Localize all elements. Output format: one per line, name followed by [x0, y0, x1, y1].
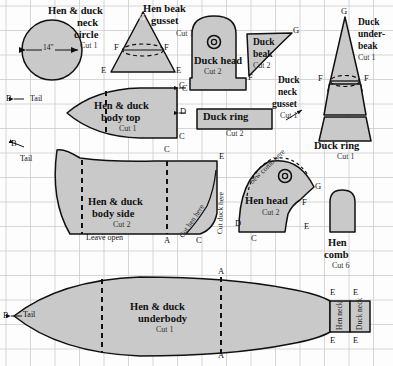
- body-side-point-e: E: [219, 152, 224, 161]
- duck-under-beak-title-line1: Duck: [358, 18, 380, 28]
- underbody-title-line2: underbody: [138, 314, 187, 325]
- duck-head-cut: Cut 2: [204, 68, 222, 76]
- body-side-tail-label: Tail: [20, 155, 32, 163]
- piece-duck-head: [190, 16, 246, 90]
- duck-neck-gusset-title-line3: gusset: [272, 100, 297, 110]
- duck-under-beak-cut: Cut 1: [358, 54, 376, 62]
- hen-beak-gusset-cut: Cut 1: [176, 30, 194, 38]
- underbody-title-line1: Hen & duck: [130, 302, 185, 313]
- piece-duck-under-beak: [328, 17, 362, 91]
- duck-neck-label: Duck neck: [356, 298, 364, 330]
- neck-circle-title-line2: neck: [77, 18, 98, 29]
- duck-under-beak-point-f-right: F: [364, 74, 369, 83]
- hen-neck-label: Hen neck: [336, 301, 344, 330]
- body-side-point-c-top: C: [164, 145, 170, 154]
- body-top-cut: Cut 1: [119, 125, 137, 133]
- hen-beak-gusset-point-f-left: F: [114, 43, 119, 52]
- body-side-point-b: B: [11, 139, 17, 148]
- body-top-point-d: D: [180, 107, 186, 116]
- underbody-tail-label: Tail: [23, 311, 35, 319]
- hen-head-point-g: G: [315, 182, 321, 191]
- duck-beak-point-g: G: [293, 26, 299, 35]
- duck-head-title: Duck head: [194, 56, 242, 67]
- body-top-point-c-top: C: [179, 81, 185, 90]
- hen-beak-gusset-title-line1: Hen beak: [143, 4, 186, 15]
- body-side-point-c-bottom: C: [196, 236, 202, 245]
- duck-under-beak-point-g: G: [341, 7, 347, 16]
- underbody-point-e-duck-bottom: E: [353, 336, 358, 345]
- body-top-tail-label: Tail: [30, 95, 42, 103]
- duck-beak-title-line1: Duck: [253, 38, 275, 48]
- hen-head-point-f: F: [302, 198, 307, 207]
- piece-duck-neck-gusset: [324, 84, 366, 115]
- duck-neck-gusset-title-line2: neck: [278, 88, 297, 98]
- body-top-title-line1: Hen & duck: [94, 101, 149, 112]
- underbody-point-e-hen-bottom: E: [330, 336, 335, 345]
- duck-neck-gusset-title-line1: Duck: [278, 76, 300, 86]
- neck-circle-dimension-label: 14": [42, 44, 55, 52]
- duck-beak-title-line2: beak: [253, 50, 273, 60]
- hen-head-point-d: D: [235, 219, 241, 228]
- body-side-point-a: A: [164, 236, 170, 245]
- cut-duck-here-label: Cut duck here: [216, 192, 225, 234]
- hen-beak-gusset-point-f-right: F: [164, 43, 169, 52]
- underbody-point-a-bottom: A: [218, 351, 224, 360]
- hen-comb-title-line2: comb: [324, 250, 349, 261]
- duck-under-beak-title-line2: under-: [358, 30, 385, 40]
- underbody-point-a-top: A: [218, 267, 224, 276]
- hen-head-title: Hen head: [245, 196, 288, 207]
- underbody-point-e-hen-top: E: [330, 288, 335, 297]
- hen-beak-gusset-point-e-right: E: [176, 66, 181, 75]
- body-top-point-c-bottom: C: [179, 132, 185, 141]
- body-side-cut: Cut 2: [113, 221, 131, 229]
- pattern-sheet: Hen & duck neck circle Cut 1 14" Hen bea…: [0, 0, 393, 366]
- duck-ring-large-cut: Cut 1: [337, 153, 355, 161]
- body-top-point-b: B: [6, 94, 12, 103]
- body-top-title-line2: body top: [101, 113, 140, 124]
- hen-comb-title-line1: Hen: [328, 238, 347, 249]
- duck-ring-large-title: Duck ring: [314, 141, 359, 152]
- underbody-point-e-duck-top: E: [353, 288, 358, 297]
- underbody-cut: Cut 1: [156, 326, 174, 334]
- duck-beak-point-f: F: [248, 73, 253, 82]
- hen-beak-gusset-point-e-left: E: [101, 66, 106, 75]
- duck-neck-gusset-cut: Cut 1: [280, 112, 298, 120]
- neck-circle-cut: Cut 1: [80, 42, 98, 50]
- body-side-title-line1: Hen & duck: [88, 197, 143, 208]
- hen-head-point-c: C: [251, 234, 257, 243]
- body-side-title-line2: body side: [92, 209, 134, 220]
- hen-beak-gusset-point-g: G: [139, 13, 145, 22]
- duck-beak-cut: Cut 2: [253, 62, 271, 70]
- neck-circle-title-line1: Hen & duck: [48, 6, 103, 17]
- duck-under-beak-point-f-left: F: [318, 74, 323, 83]
- duck-under-beak-title-line3: beak: [358, 42, 378, 52]
- piece-duck-ring-large: [319, 117, 371, 141]
- hen-head-cut: Cut 2: [262, 209, 280, 217]
- hen-head-point-e: E: [304, 222, 309, 231]
- body-side-leave-open: Leave open: [86, 234, 123, 242]
- duck-ring-small-title: Duck ring: [203, 112, 248, 123]
- underbody-point-b: B: [3, 311, 9, 320]
- piece-hen-comb: [330, 190, 355, 232]
- duck-ring-small-cut: Cut 2: [226, 130, 244, 138]
- hen-beak-gusset-title-line2: gusset: [151, 16, 178, 27]
- hen-comb-cut: Cut 6: [332, 262, 350, 270]
- neck-circle-title-line3: circle: [74, 30, 98, 41]
